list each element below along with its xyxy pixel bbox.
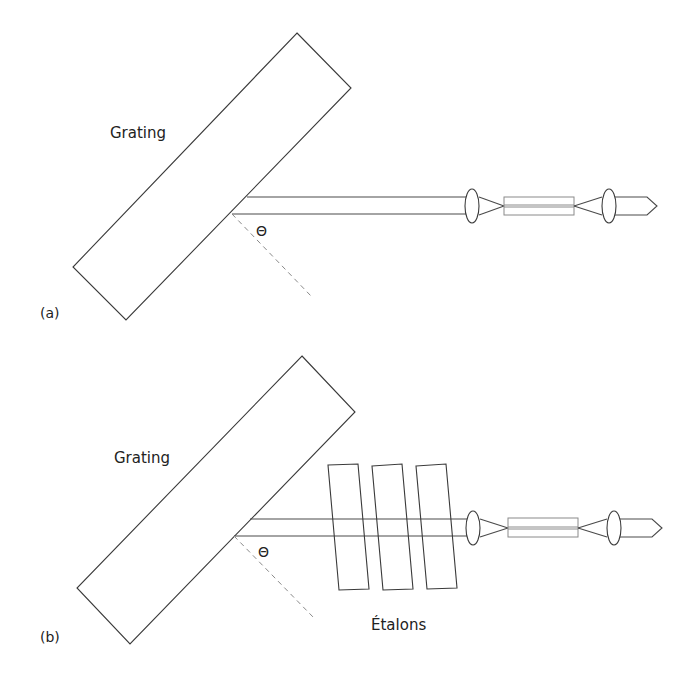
cone-out-top-b xyxy=(578,519,607,528)
grating-b xyxy=(77,356,355,644)
output-arrow-b xyxy=(620,519,662,537)
gain-fiber-a xyxy=(504,197,574,215)
lens-2-b xyxy=(607,511,621,545)
grating-normal-a xyxy=(232,214,311,296)
panel-label-a: (a) xyxy=(40,305,60,321)
cone-out-top-a xyxy=(574,197,602,206)
theta-label-a: Θ xyxy=(256,223,267,239)
cone-in-bot-a xyxy=(479,206,504,215)
laser-cavity-diagram: Grating Θ (a) Grating Θ xyxy=(0,0,697,680)
grating-label-a: Grating xyxy=(110,124,166,142)
grating-normal-b xyxy=(234,536,314,618)
panel-label-b: (b) xyxy=(40,629,60,645)
theta-label-b: Θ xyxy=(258,544,269,560)
etalon-2 xyxy=(372,464,413,590)
cone-in-top-b xyxy=(480,519,508,528)
cone-out-bot-a xyxy=(574,206,602,215)
lens-1-b xyxy=(466,511,480,545)
panel-b: Grating Θ Étalons (b) xyxy=(40,356,662,645)
panel-a: Grating Θ (a) xyxy=(40,33,657,321)
cone-out-bot-b xyxy=(578,528,607,537)
cone-in-bot-b xyxy=(480,528,508,537)
etalon-3 xyxy=(416,464,457,589)
grating-label-b: Grating xyxy=(114,449,170,467)
output-arrow-a xyxy=(615,197,657,215)
lens-1-a xyxy=(465,189,479,223)
lens-2-a xyxy=(602,189,616,223)
etalon-1 xyxy=(328,464,369,590)
etalon-label: Étalons xyxy=(371,615,426,634)
cone-in-top-a xyxy=(479,197,504,206)
grating-a xyxy=(73,33,351,320)
